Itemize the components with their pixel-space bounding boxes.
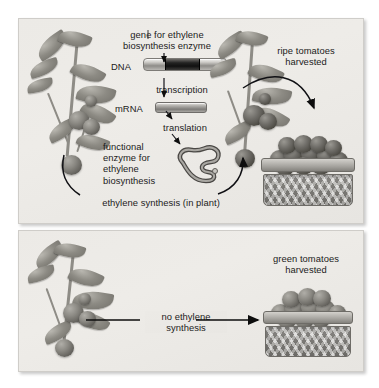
enzyme-shape [180, 147, 218, 181]
cycle-arc-right [218, 158, 243, 194]
diagram-canvas: gene for ethylene biosynthesis enzyme DN… [0, 0, 379, 388]
translation-arrow-lower [172, 134, 180, 144]
cycle-arc-left [63, 155, 80, 195]
connector-overlay [0, 0, 379, 388]
ripe-harvest-arrow [243, 77, 314, 108]
translation-arrow-upper [166, 111, 172, 119]
